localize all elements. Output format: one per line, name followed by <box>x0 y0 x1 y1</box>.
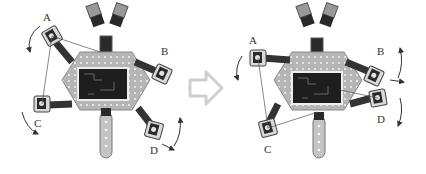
rotation-arrow-d <box>398 98 402 126</box>
head-servo-left <box>86 3 105 28</box>
leg-label-c: C <box>264 144 271 155</box>
leg-label-a: A <box>249 35 257 46</box>
robot-initial-pose <box>22 3 180 158</box>
control-board <box>292 72 342 104</box>
leg-c <box>258 104 278 138</box>
rotation-arrow-b-up <box>398 48 402 78</box>
leg-label-a: A <box>43 12 51 23</box>
leg-c <box>34 96 72 112</box>
leg-label-d: D <box>150 145 158 156</box>
rotation-arrow-a <box>237 56 242 80</box>
tail <box>313 116 325 158</box>
leg-label-c: C <box>34 118 41 129</box>
transition-arrow <box>190 72 222 104</box>
robot-next-pose <box>237 3 404 158</box>
leg-a <box>41 25 72 62</box>
leg-label-b: B <box>161 46 168 57</box>
rotation-arrow-a <box>29 26 40 52</box>
head-servo-right <box>319 3 338 28</box>
control-board <box>78 68 128 100</box>
tail <box>100 112 112 158</box>
head-servo-left <box>296 3 315 28</box>
rotation-arrow-d-out <box>162 144 174 150</box>
rotation-arrow-d-up <box>174 118 180 146</box>
leg-label-d: D <box>377 114 385 125</box>
rotation-arrow-b-out <box>390 80 404 82</box>
leg-label-b: B <box>377 46 384 57</box>
head-servo-right <box>109 3 128 28</box>
leg-d <box>138 108 164 140</box>
gait-diagram <box>0 0 426 174</box>
